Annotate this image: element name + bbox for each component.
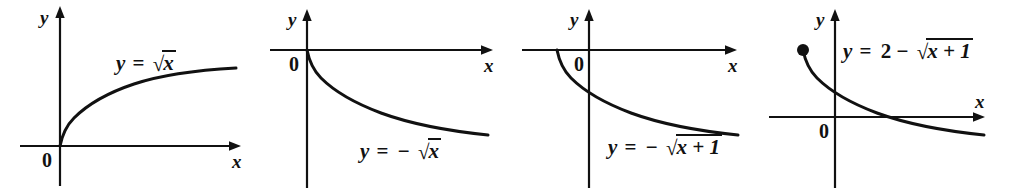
panel-d-radical: √x + 1 xyxy=(916,38,973,62)
chart-panel-d: y x 0 y = 2 − √x + 1 xyxy=(755,0,1009,193)
x-axis xyxy=(20,141,241,150)
panel-b-eq-sign-equals: = xyxy=(375,139,391,163)
x-axis xyxy=(270,45,493,54)
panel-d-plot xyxy=(755,0,1009,193)
endpoint-dot-marker xyxy=(797,44,809,56)
panel-a-y-axis-label: y xyxy=(40,8,48,27)
x-axis xyxy=(522,45,737,54)
panel-b-equation: y = − √x xyxy=(360,138,441,162)
panel-a-equation: y = √x xyxy=(116,50,176,74)
panel-d-y-axis-label: y xyxy=(816,10,824,29)
panel-b-eq-lhs: y xyxy=(360,139,369,163)
panel-c-origin-label: 0 xyxy=(574,54,584,74)
panel-d-eq-lhs: y xyxy=(843,39,852,63)
panel-c-eq-sign-equals: = xyxy=(623,135,639,159)
panel-a-plot xyxy=(0,0,250,193)
panel-c-y-axis-label: y xyxy=(570,10,578,29)
panel-c-radicand: x + 1 xyxy=(676,134,722,158)
panel-b-y-axis-label: y xyxy=(288,10,296,29)
panel-d-eq-sign-equals: = xyxy=(858,39,874,63)
panel-c-x-axis-label: x xyxy=(728,56,738,75)
panel-b-eq-sign-negative: − xyxy=(396,139,412,163)
panel-d-eq-sign-two-minus: 2 − xyxy=(879,39,911,63)
panel-a-x-axis-label: x xyxy=(232,152,242,171)
panel-c-equation: y = − √x + 1 xyxy=(608,134,722,158)
panel-a-radical: √x xyxy=(152,50,176,74)
panel-c-eq-sign-negative: − xyxy=(644,135,660,159)
panel-c-eq-lhs: y xyxy=(608,135,617,159)
panel-c-radical: √x + 1 xyxy=(665,134,722,158)
curve-neg-sqrt-x xyxy=(307,50,488,135)
panel-b-radicand: x xyxy=(428,138,442,162)
panel-a-eq-lhs: y xyxy=(116,51,125,75)
y-axis xyxy=(830,9,839,188)
panel-b-x-axis-label: x xyxy=(484,56,494,75)
panel-b-radical: √x xyxy=(417,138,441,162)
y-axis xyxy=(302,9,311,188)
panel-c-plot xyxy=(500,0,755,193)
curve-sqrt-x xyxy=(60,68,236,146)
curve-neg-sqrt-x-plus-1 xyxy=(557,50,738,135)
panel-a-origin-label: 0 xyxy=(42,150,52,170)
chart-panel-c: y x 0 y = − √x + 1 xyxy=(500,0,755,193)
panel-d-origin-label: 0 xyxy=(819,121,829,141)
figure-root: y x 0 y = √x y x 0 y = − √x xyxy=(0,0,1009,193)
panel-d-x-axis-label: x xyxy=(975,92,985,111)
chart-panel-a: y x 0 y = √x xyxy=(0,0,250,193)
y-axis xyxy=(55,6,64,186)
panel-a-radicand: x xyxy=(162,50,176,74)
chart-panel-b: y x 0 y = − √x xyxy=(250,0,500,193)
y-axis xyxy=(584,9,593,188)
panel-d-equation: y = 2 − √x + 1 xyxy=(843,38,973,62)
panel-b-origin-label: 0 xyxy=(289,54,299,74)
panel-a-eq-sign-equals: = xyxy=(131,51,147,75)
panel-d-radicand: x + 1 xyxy=(926,38,972,62)
